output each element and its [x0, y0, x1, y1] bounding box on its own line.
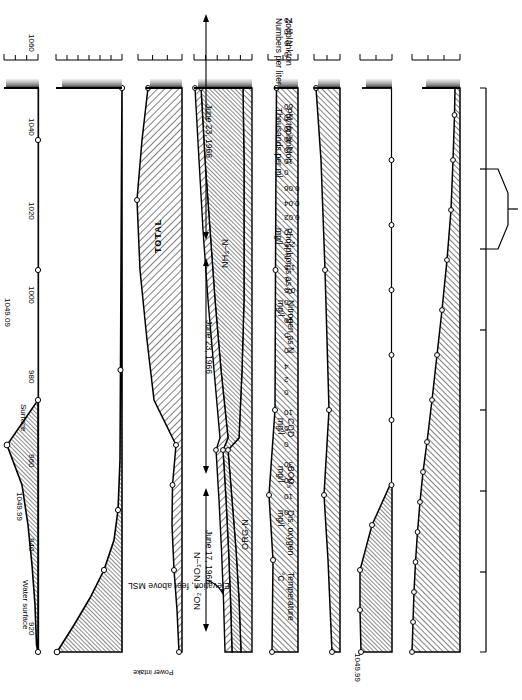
nitrogen-elev-note: 1049.09: [12, 298, 41, 307]
nitrogen-elev-note-text: 1049.09: [3, 298, 12, 327]
water-surface-label: Water surface: [30, 580, 80, 589]
elevation-axis: [480, 0, 522, 700]
do-elevation-label: 1049.99: [353, 653, 362, 682]
water-surface-label-text: Water surface: [21, 580, 30, 630]
power-intake-label: Power intake: [133, 668, 173, 677]
panel-temperature: [406, 0, 468, 700]
temperature-plot: [406, 0, 468, 700]
elevation-axis-line: [480, 0, 522, 700]
do-elev-note-text: 1049.99: [15, 492, 24, 521]
surface-label-text: Surface: [19, 404, 28, 432]
do-elev-note: 1049.99: [24, 492, 53, 501]
temperature-axis: [406, 38, 468, 64]
power-intake-label-text: Power intake: [133, 669, 173, 676]
do-axis: [354, 38, 400, 64]
panel-dissolved-oxygen: 1049.99: [354, 0, 400, 700]
elevation-axis-title-text: Elevation, feet above MSL: [128, 580, 230, 590]
elevation-axis-title: Elevation, feet above MSL: [128, 580, 230, 590]
surface-label: Surface: [28, 404, 56, 413]
do-plot: [354, 0, 400, 700]
